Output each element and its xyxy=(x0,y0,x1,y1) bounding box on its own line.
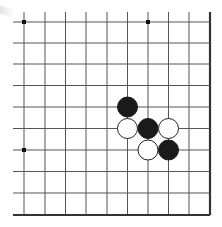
star-point xyxy=(22,20,26,24)
star-point xyxy=(146,20,150,24)
board-grid xyxy=(13,12,210,215)
white-stone xyxy=(159,119,179,139)
white-stone xyxy=(138,140,158,160)
go-board[interactable] xyxy=(0,0,222,227)
star-point xyxy=(22,148,26,152)
black-stone xyxy=(138,119,158,139)
black-stone xyxy=(159,140,179,160)
black-stone xyxy=(118,97,138,117)
white-stone xyxy=(118,119,138,139)
